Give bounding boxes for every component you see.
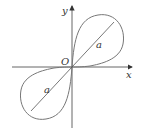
segment-upper (72, 22, 114, 67)
y-axis-label: y (61, 5, 68, 16)
lemniscate-diagram: y x O a a (0, 0, 145, 133)
x-axis-label: x (126, 69, 132, 80)
segment-lower (31, 67, 72, 111)
segment-label-lower: a (44, 84, 50, 95)
segment-label-upper: a (96, 39, 102, 50)
origin-label: O (61, 56, 69, 67)
